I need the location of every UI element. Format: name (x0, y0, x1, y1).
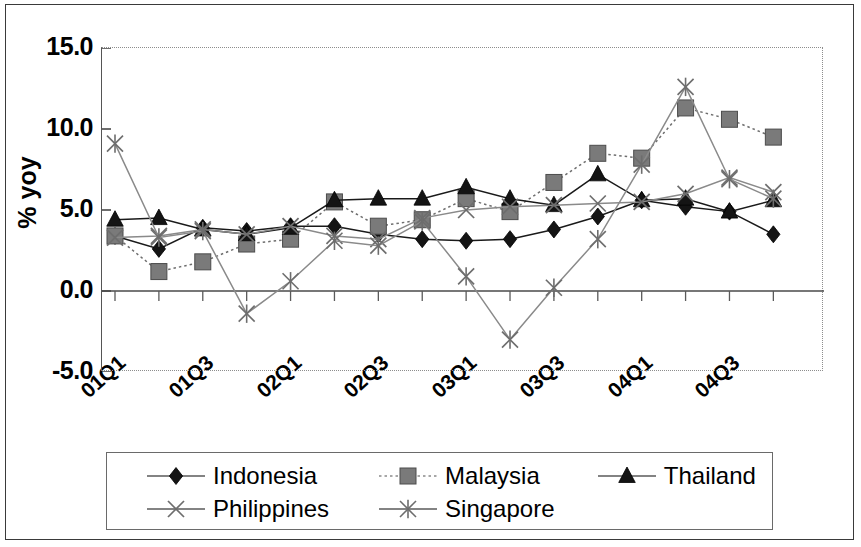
legend-label-malaysia: Malaysia (445, 462, 540, 490)
plot-svg (102, 48, 824, 372)
series-singapore (107, 78, 781, 349)
malaysia-marker-icon (377, 464, 439, 488)
singapore-marker-icon (377, 497, 439, 521)
legend-label-singapore: Singapore (445, 495, 554, 523)
indonesia-marker-icon (145, 464, 207, 488)
legend-item-malaysia: Malaysia (377, 459, 540, 492)
legend-item-singapore: Singapore (377, 492, 554, 525)
legend-row: Indonesia Malaysia Thailand (107, 459, 772, 492)
chart-figure: % yoy 15.010.05.00.0-5.0 01Q101Q302Q102Q… (0, 0, 861, 547)
series-malaysia (107, 100, 781, 280)
legend-label-thailand: Thailand (664, 462, 756, 490)
plot-area (101, 47, 823, 371)
legend-label-indonesia: Indonesia (213, 462, 317, 490)
legend-label-philippines: Philippines (213, 495, 329, 523)
legend-item-thailand: Thailand (596, 459, 756, 492)
thailand-marker-icon (596, 464, 658, 488)
philippines-marker-icon (145, 497, 207, 521)
chart-legend: Indonesia Malaysia Thailand Philippines … (106, 452, 773, 530)
legend-item-philippines: Philippines (145, 492, 329, 525)
legend-row: Philippines Singapore (107, 492, 772, 525)
legend-item-indonesia: Indonesia (145, 459, 317, 492)
